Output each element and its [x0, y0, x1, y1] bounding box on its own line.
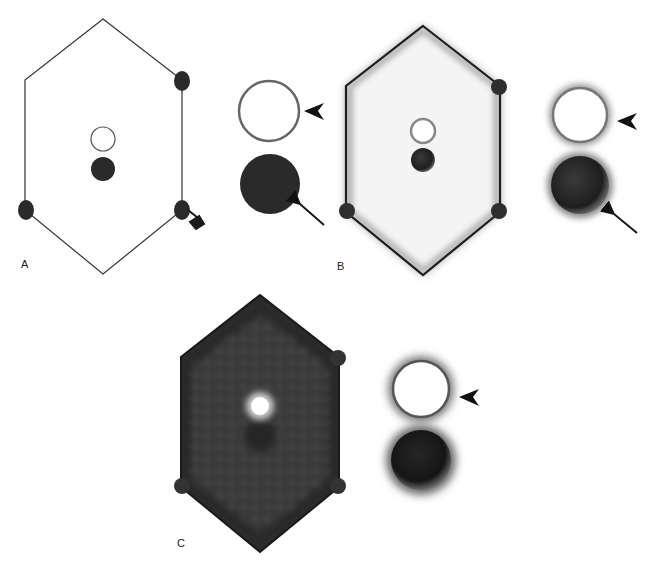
dark-region: [244, 420, 276, 452]
bold-arrow-icon: [188, 210, 204, 229]
vertex-dot: [18, 200, 34, 220]
arrow-icon: [300, 204, 324, 225]
dot-enlarged: [551, 156, 609, 214]
dot-enlarged: [391, 430, 451, 490]
small-dot: [91, 157, 115, 181]
vertex-dot: [339, 203, 355, 219]
ring-enlarged: [239, 81, 299, 141]
vertex-dot: [174, 200, 190, 220]
vertex-dot: [330, 350, 346, 366]
vertex-dot: [491, 203, 507, 219]
ring-enlarged: [553, 88, 607, 142]
vertex-dot: [330, 478, 346, 494]
panel-a: A: [18, 19, 324, 274]
vertex-dot: [174, 478, 190, 494]
arrowhead-icon: [304, 103, 324, 120]
panel-label: B: [337, 260, 344, 272]
panel-c: C: [174, 295, 479, 552]
arrow-icon: [614, 214, 637, 233]
panel-b: B: [337, 26, 637, 275]
arrowhead-icon: [617, 113, 637, 130]
dot-enlarged: [240, 154, 300, 214]
ring-enlarged: [393, 361, 449, 417]
vertex-dot: [491, 79, 507, 95]
panel-label: C: [177, 537, 185, 549]
vertex-dot: [174, 71, 190, 91]
small-ring: [251, 397, 269, 415]
figure-canvas: A B C: [0, 0, 652, 567]
panel-label: A: [21, 258, 29, 270]
arrowhead-icon: [459, 389, 479, 406]
small-ring: [91, 127, 115, 151]
small-ring: [411, 119, 435, 143]
small-dot: [411, 148, 435, 172]
